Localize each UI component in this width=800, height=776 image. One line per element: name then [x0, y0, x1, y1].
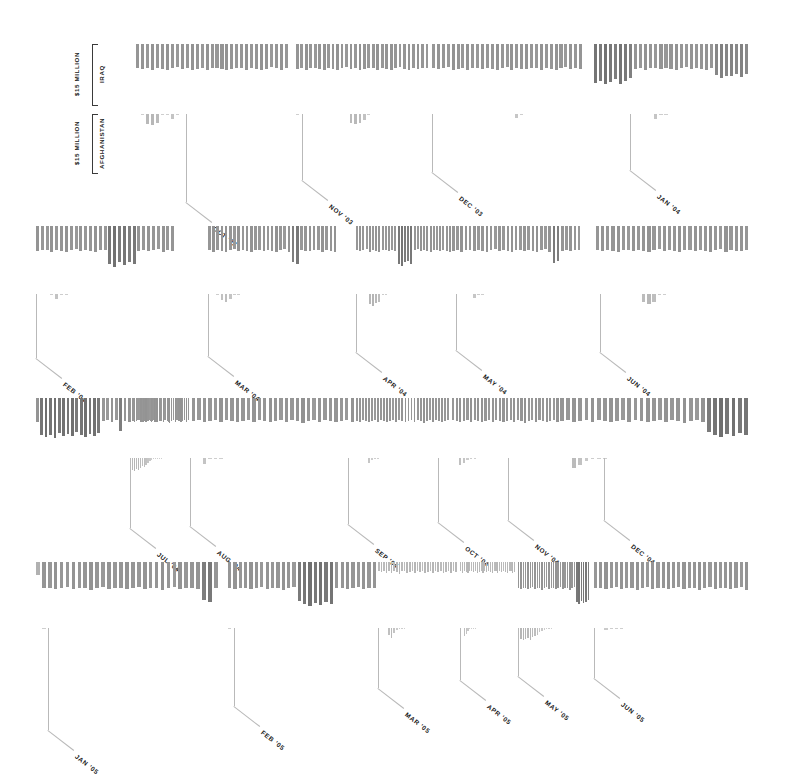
bar-iraq — [620, 562, 623, 589]
bar-iraq — [553, 398, 555, 420]
bar-afghanistan — [203, 458, 206, 464]
bar-iraq — [659, 44, 662, 69]
bar-afghanistan — [525, 628, 526, 639]
bar-iraq — [704, 226, 707, 251]
bar-iraq — [531, 398, 533, 420]
bar-iraq — [131, 562, 135, 588]
month-panel-iraq — [296, 44, 430, 104]
bar-iraq — [486, 226, 489, 252]
bar-iraq — [280, 44, 283, 70]
bar-iraq — [99, 226, 102, 250]
bar-iraq — [111, 398, 114, 422]
bar-iraq — [421, 44, 424, 68]
bar-iraq — [603, 398, 607, 421]
leader-line-vertical — [604, 458, 605, 520]
bar-iraq — [707, 398, 711, 432]
bar-iraq — [401, 562, 403, 571]
bar-iraq — [439, 226, 441, 251]
bar-afghanistan — [374, 458, 376, 459]
leader-line-vertical — [456, 294, 457, 350]
bar-afghanistan — [481, 294, 484, 295]
bar-iraq — [549, 398, 551, 421]
leader-line-vertical — [378, 628, 379, 688]
month-panel-afghanistan — [228, 628, 378, 684]
bar-iraq — [518, 562, 519, 588]
bar-iraq — [506, 44, 509, 67]
bar-iraq — [668, 226, 671, 250]
bar-iraq — [390, 44, 393, 70]
bar-iraq — [713, 398, 717, 435]
bar-iraq — [124, 398, 127, 421]
bar-iraq — [233, 562, 236, 589]
bar-iraq — [550, 44, 553, 69]
bar-afghanistan — [548, 628, 549, 629]
bar-iraq — [430, 562, 432, 571]
bar-iraq — [537, 562, 538, 588]
leader-line-diagonal — [301, 180, 328, 201]
bar-iraq — [275, 44, 278, 68]
bar-iraq — [669, 44, 672, 69]
bar-iraq — [481, 44, 484, 69]
bar-iraq — [564, 562, 565, 588]
bar-afghanistan — [367, 114, 370, 115]
bar-iraq — [685, 44, 688, 67]
bar-iraq — [738, 398, 742, 433]
bar-iraq — [683, 398, 687, 423]
bar-iraq — [548, 226, 551, 252]
leader-line-vertical — [432, 114, 433, 172]
bar-iraq — [78, 562, 82, 588]
bar-iraq — [604, 562, 607, 589]
bar-iraq — [381, 562, 383, 572]
month-panel-afghanistan — [192, 458, 356, 520]
bar-iraq — [530, 44, 533, 68]
month-label: MAR '05 — [404, 711, 432, 735]
bar-iraq — [296, 44, 299, 69]
bar-iraq — [137, 226, 140, 251]
bar-iraq — [459, 398, 461, 422]
bar-iraq — [719, 398, 723, 437]
bar-afghanistan — [221, 294, 224, 300]
bar-afghanistan — [572, 458, 576, 468]
leader-line-vertical — [190, 458, 191, 526]
bar-iraq — [83, 562, 87, 588]
bar-iraq — [118, 226, 121, 262]
bar-iraq — [740, 44, 743, 77]
bar-iraq — [362, 398, 364, 420]
bar-iraq — [162, 226, 165, 252]
month-label: NOV '03 — [328, 203, 355, 226]
bar-iraq — [740, 562, 743, 587]
bar-iraq — [283, 226, 286, 249]
month-panel-afghanistan — [460, 628, 516, 684]
bar-afghanistan — [459, 458, 461, 465]
bar-iraq — [544, 562, 545, 588]
bar-iraq — [404, 226, 406, 262]
bar-iraq — [698, 562, 701, 590]
bar-iraq — [270, 44, 273, 67]
bar-iraq — [250, 226, 253, 252]
bar-iraq — [474, 398, 476, 420]
iraq-series-label: IRAQ — [99, 44, 105, 104]
bar-iraq — [536, 226, 539, 252]
bar-iraq — [463, 398, 465, 421]
bar-iraq — [642, 226, 645, 251]
bar-iraq — [430, 226, 432, 252]
leader-line-diagonal — [455, 350, 482, 371]
bar-iraq — [720, 44, 723, 78]
bar-iraq — [276, 562, 279, 588]
bar-iraq — [50, 226, 53, 252]
bar-iraq — [426, 398, 428, 421]
month-panel-iraq — [356, 226, 452, 286]
bar-iraq — [84, 226, 87, 250]
bar-iraq — [255, 44, 258, 69]
bar-iraq — [406, 562, 408, 573]
bar-iraq — [329, 398, 332, 421]
bar-iraq — [481, 226, 484, 251]
bar-iraq — [569, 44, 572, 69]
bar-afghanistan — [658, 294, 661, 295]
bar-iraq — [622, 226, 625, 250]
bar-iraq — [332, 44, 335, 69]
bar-iraq — [569, 562, 570, 590]
bar-iraq — [409, 562, 411, 572]
bar-iraq — [323, 44, 326, 70]
bar-afghanistan — [463, 458, 465, 463]
